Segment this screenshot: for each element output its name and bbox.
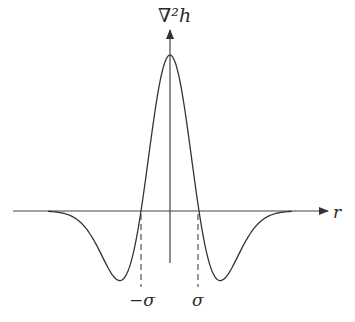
neg-sigma-label: −σ [129, 290, 155, 310]
y-axis-label: ∇²h [158, 4, 191, 26]
x-axis-label: r [333, 202, 342, 222]
pos-sigma-label: σ [192, 290, 204, 310]
log-diagram: ∇²h r −σ σ [0, 0, 355, 322]
